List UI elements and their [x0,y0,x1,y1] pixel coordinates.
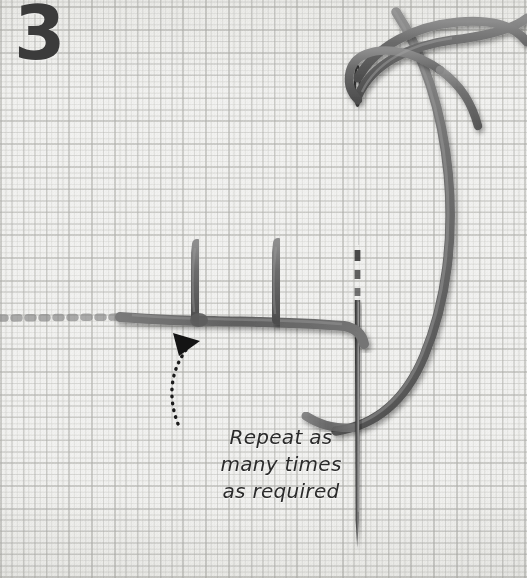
step-number: 3 [14,0,64,70]
needle-under-fabric-segment [355,250,361,296]
blanket-stitch-row [0,243,364,344]
embroidery-step-photo: 3 Repeat as many times as required [0,0,527,578]
stitch-leg-1 [193,244,197,318]
stitch-baseline-thread [120,315,364,344]
stitch-junction [190,313,208,327]
annotation-text: Repeat as many times as required [196,424,366,505]
annotation-line-2: many times [196,451,366,478]
stitch-continuation-dashes [0,317,128,318]
annotation-line-1: Repeat as [196,424,366,451]
arrow-head-icon [173,333,200,356]
stitch-leg-2 [274,243,278,320]
annotation-arrow [172,333,200,424]
annotation-line-3: as required [196,478,366,505]
